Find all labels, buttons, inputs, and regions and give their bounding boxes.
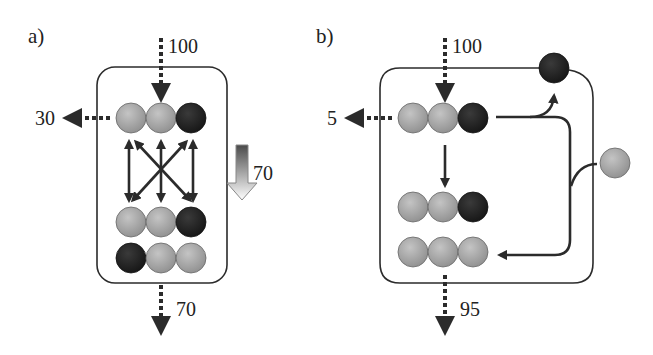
ball-dark xyxy=(176,207,206,237)
panel-b-bottom-output-flow: 95 xyxy=(460,298,480,320)
panel-b-side-output-flow: 5 xyxy=(327,107,337,129)
ball-light xyxy=(458,237,488,267)
ball-light xyxy=(146,207,176,237)
panel-a-row-2 xyxy=(116,207,206,237)
panel-b-input-flow: 100 xyxy=(452,35,482,57)
panel-a-side-output-flow: 30 xyxy=(35,107,55,129)
ball-light xyxy=(398,192,428,222)
external-ball-light xyxy=(600,148,630,178)
panel-a-exchange-arrows xyxy=(129,142,193,200)
panel-a: a) 100 30 70 70 xyxy=(28,24,273,330)
panel-a-input-flow: 100 xyxy=(168,35,198,57)
ball-light xyxy=(176,243,206,273)
ball-light xyxy=(398,237,428,267)
ball-light xyxy=(428,192,458,222)
panel-b-row-1 xyxy=(398,103,488,133)
panel-b-recycle-arrow xyxy=(496,117,570,255)
ball-light xyxy=(398,103,428,133)
ball-light xyxy=(428,237,458,267)
panel-a-label: a) xyxy=(28,24,44,48)
ball-light xyxy=(116,207,146,237)
diagram-canvas: a) 100 30 70 70 xyxy=(0,0,653,355)
panel-b-label: b) xyxy=(316,24,334,48)
ball-light xyxy=(428,103,458,133)
ball-dark xyxy=(458,192,488,222)
ball-dark xyxy=(116,243,146,273)
panel-a-bottom-output-flow: 70 xyxy=(176,298,196,320)
panel-b: b) 100 5 95 xyxy=(316,24,630,330)
ball-dark xyxy=(458,103,488,133)
panel-a-row-3 xyxy=(116,243,206,273)
ball-dark xyxy=(176,103,206,133)
ball-light xyxy=(116,103,146,133)
panel-b-output-branch-arrow xyxy=(530,96,554,117)
panel-b-row-3 xyxy=(398,237,488,267)
external-ball-dark xyxy=(539,53,569,83)
panel-b-row-2 xyxy=(398,192,488,222)
panel-a-gradient-arrow-flow: 70 xyxy=(253,162,273,184)
panel-a-row-1 xyxy=(116,103,206,133)
ball-light xyxy=(146,243,176,273)
ball-light xyxy=(146,103,176,133)
